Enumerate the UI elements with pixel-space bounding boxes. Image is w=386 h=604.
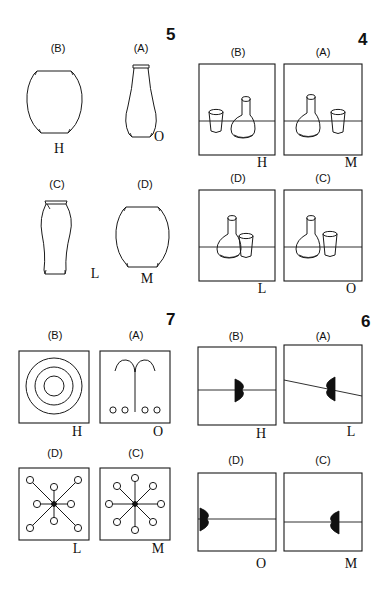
item-4-option-A-label: (A)	[285, 46, 361, 58]
item-5-panel: 5 (B) H (A) O (C)	[0, 0, 193, 302]
item-5-figure-D[interactable]	[112, 198, 182, 276]
item-4-key-A: M	[336, 155, 366, 171]
item-7-key-C: M	[143, 541, 173, 557]
figure-sheet: 5 (B) H (A) O (C)	[0, 0, 386, 604]
item-5-option-A-label: (A)	[111, 42, 171, 54]
item-7-key-A: O	[143, 424, 173, 440]
item-7-key-D: L	[62, 541, 92, 557]
item-6-key-D: O	[246, 556, 276, 572]
item-6-number: 6	[361, 312, 370, 332]
item-6-option-A-label: (A)	[285, 330, 361, 342]
item-4-key-C: O	[336, 281, 366, 297]
item-6-figure-C[interactable]	[283, 472, 363, 552]
item-6-key-A: L	[336, 424, 366, 440]
item-7-figure-D[interactable]	[18, 467, 90, 541]
item-6-option-C-label: (C)	[285, 454, 361, 466]
item-5-option-C-label: (C)	[22, 178, 92, 190]
item-7-figure-B[interactable]	[18, 350, 90, 424]
item-4-option-B-label: (B)	[200, 46, 276, 58]
item-7-figure-A[interactable]	[99, 350, 171, 424]
item-7-panel: 7 (B) H (A) O (D)	[0, 302, 193, 604]
item-4-panel: 4 (B) H (A) M (D	[193, 0, 386, 302]
item-7-figure-C[interactable]	[99, 467, 171, 541]
item-4-figure-C[interactable]	[283, 189, 363, 282]
item-7-key-B: H	[62, 424, 92, 440]
item-6-figure-D[interactable]	[197, 472, 277, 552]
item-6-option-B-label: (B)	[198, 330, 274, 342]
item-7-option-B-label: (B)	[18, 329, 92, 341]
item-4-figure-A[interactable]	[283, 63, 363, 156]
item-7-option-C-label: (C)	[99, 447, 173, 459]
item-4-option-D-label: (D)	[200, 172, 276, 184]
item-4-key-B: H	[247, 155, 277, 171]
item-5-figure-B[interactable]	[24, 62, 94, 142]
item-7-number: 7	[166, 310, 175, 330]
item-7-option-A-label: (A)	[99, 329, 173, 341]
item-5-key-B: H	[24, 141, 94, 157]
item-6-key-B: H	[246, 426, 276, 442]
item-4-key-D: L	[247, 281, 277, 297]
item-6-figure-A[interactable]	[283, 344, 363, 424]
item-6-option-D-label: (D)	[198, 454, 274, 466]
item-5-key-D: M	[112, 271, 182, 287]
item-5-key-C: L	[80, 266, 110, 282]
item-5-option-D-label: (D)	[112, 178, 178, 190]
item-6-key-C: M	[336, 556, 366, 572]
item-4-figure-B[interactable]	[198, 63, 276, 156]
item-7-option-D-label: (D)	[18, 447, 92, 459]
item-4-option-C-label: (C)	[285, 172, 361, 184]
item-5-key-A: O	[144, 129, 174, 145]
item-5-option-B-label: (B)	[23, 42, 93, 54]
item-4-figure-D[interactable]	[198, 189, 276, 282]
item-6-panel: 6 (B) H (A) L (D) O (C)	[193, 302, 386, 604]
item-6-figure-B[interactable]	[197, 346, 277, 426]
